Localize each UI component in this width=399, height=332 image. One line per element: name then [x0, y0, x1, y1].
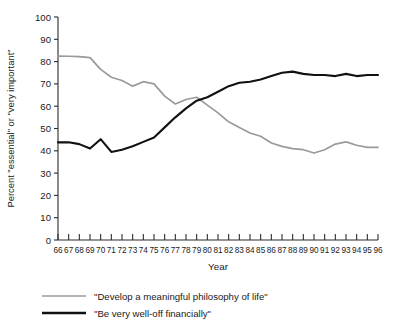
- legend-label-1: "Develop a meaningful philosophy of life…: [94, 291, 268, 302]
- x-axis-tick-label: 92: [331, 246, 341, 255]
- x-axis-tick-label: 91: [320, 246, 330, 255]
- x-axis-tick-label: 74: [139, 246, 149, 255]
- series-line-1: [58, 56, 378, 153]
- x-axis-tick-label: 95: [363, 246, 373, 255]
- x-axis-tick-label: 87: [277, 246, 287, 255]
- y-axis-tick-label: 30: [40, 168, 51, 179]
- x-axis-tick-label: 79: [192, 246, 202, 255]
- x-axis-tick-label: 68: [75, 246, 85, 255]
- x-axis-tick-label: 77: [171, 246, 181, 255]
- x-axis-tick-label: 82: [224, 246, 234, 255]
- x-axis-tick-label: 81: [213, 246, 223, 255]
- x-axis-tick-label: 67: [64, 246, 74, 255]
- y-axis-tick-label: 0: [46, 235, 51, 246]
- x-axis-tick-label: 66: [53, 246, 63, 255]
- x-axis-tick-label: 88: [288, 246, 298, 255]
- x-axis-tick-label: 83: [235, 246, 245, 255]
- y-axis-tick-label: 90: [40, 34, 51, 45]
- y-axis-tick-label: 80: [40, 56, 51, 67]
- y-axis-tick-label: 50: [40, 123, 51, 134]
- x-axis-tick-label: 69: [85, 246, 95, 255]
- x-axis-tick-label: 71: [107, 246, 117, 255]
- x-axis-tick-label: 90: [309, 246, 319, 255]
- y-axis-tick-label: 40: [40, 145, 51, 156]
- x-axis-tick-label: 93: [341, 246, 351, 255]
- x-axis-tick-label: 72: [117, 246, 127, 255]
- x-axis-tick-label: 75: [149, 246, 159, 255]
- y-axis-tick-label: 70: [40, 78, 51, 89]
- x-axis-tick-label: 84: [245, 246, 255, 255]
- x-axis-tick-label: 94: [352, 246, 362, 255]
- x-axis-tick-label: 96: [373, 246, 383, 255]
- y-axis-tick-label: 10: [40, 212, 51, 223]
- series-line-2: [58, 72, 378, 152]
- y-axis-tick-label: 60: [40, 101, 51, 112]
- y-axis-tick-label: 20: [40, 190, 51, 201]
- x-axis-title: Year: [208, 261, 229, 272]
- x-axis-tick-label: 80: [203, 246, 213, 255]
- x-axis-tick-label: 78: [181, 246, 191, 255]
- line-chart: 0102030405060708090100666768697071727374…: [0, 0, 399, 332]
- y-axis-tick-label: 100: [35, 12, 51, 23]
- legend-label-2: "Be very well-off financially": [94, 308, 211, 319]
- x-axis-tick-label: 89: [299, 246, 309, 255]
- x-axis-tick-label: 85: [256, 246, 266, 255]
- x-axis-tick-label: 70: [96, 246, 106, 255]
- x-axis-tick-label: 86: [267, 246, 277, 255]
- y-axis-title: Percent "essential" or "very important": [5, 49, 16, 207]
- x-axis-tick-label: 73: [128, 246, 138, 255]
- x-axis-tick-label: 76: [160, 246, 170, 255]
- chart-container: 0102030405060708090100666768697071727374…: [0, 0, 399, 332]
